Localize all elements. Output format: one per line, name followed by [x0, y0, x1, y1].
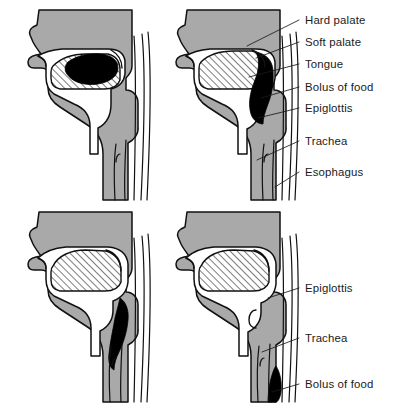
- label-trachea: Trachea: [305, 135, 348, 147]
- label-bolus-of-food-2: Bolus of food: [305, 378, 373, 390]
- label-hard-palate: Hard palate: [305, 14, 366, 26]
- label-tongue: Tongue: [305, 58, 343, 70]
- swallowing-diagram: Hard palate Soft palate Tongue Bolus of …: [0, 0, 408, 408]
- label-bolus-of-food: Bolus of food: [305, 81, 373, 93]
- label-trachea-2: Trachea: [305, 332, 348, 344]
- label-epiglottis-2: Epiglottis: [305, 282, 353, 294]
- label-epiglottis: Epiglottis: [305, 102, 353, 114]
- label-esophagus: Esophagus: [305, 166, 364, 178]
- label-soft-palate: Soft palate: [305, 36, 361, 48]
- diagram-canvas: Hard palate Soft palate Tongue Bolus of …: [0, 0, 408, 408]
